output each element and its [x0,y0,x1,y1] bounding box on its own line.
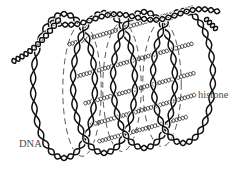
dna-label: DNA [19,139,42,150]
dna-free-end [12,18,217,64]
dna-coils [31,7,220,161]
histone-label: histone [198,90,228,101]
histone-rod [87,93,196,128]
